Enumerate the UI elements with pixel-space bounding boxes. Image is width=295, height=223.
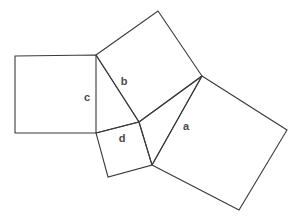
side-label-b: b <box>121 76 128 87</box>
geometry-diagram: a b c d <box>0 0 295 223</box>
side-label-a: a <box>183 121 189 132</box>
figure-canvas <box>0 0 295 223</box>
square-a-outline <box>152 76 287 210</box>
connector-side-c-line <box>96 55 139 122</box>
connector-side-d-upper-line <box>96 122 139 133</box>
side-label-d: d <box>119 133 126 144</box>
square-d-outline <box>96 122 152 177</box>
connector-side-a-line <box>152 76 202 165</box>
connector-side-d-lower-line <box>139 122 152 165</box>
side-label-c: c <box>84 92 90 103</box>
connector-side-b-line <box>139 76 202 122</box>
